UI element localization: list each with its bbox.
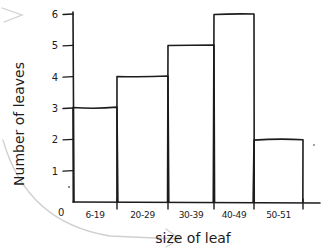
- y-tick-label: 5: [52, 40, 58, 51]
- y-tick-label: 1: [52, 166, 58, 177]
- y-axis-title: Number of leaves: [11, 62, 27, 186]
- x-category-label: 20-29: [130, 210, 155, 220]
- y-tick-mark: [63, 139, 73, 140]
- top-left-arrow-icon: [2, 8, 22, 22]
- bar-30-39: [168, 45, 215, 202]
- bar-20-29: [117, 76, 169, 202]
- x-category-label: 30-39: [179, 210, 204, 220]
- y-tick-label: 3: [52, 103, 58, 114]
- curved-arrow-line: [3, 140, 178, 239]
- origin-label: 0: [58, 207, 64, 218]
- y-tick-label: 2: [52, 134, 58, 145]
- x-axis-title: size of leaf: [155, 230, 232, 246]
- stray-dot: [313, 144, 315, 146]
- x-category-label: 50-51: [266, 210, 291, 220]
- x-axis-line: [73, 202, 320, 203]
- y-tick-mark: [63, 77, 73, 78]
- y-ticks: 123456: [52, 9, 73, 177]
- y-tick-mark: [63, 108, 73, 109]
- x-category-labels: 6-1920-2930-3940-4950-51: [85, 210, 290, 220]
- y-tick-mark: [63, 171, 73, 172]
- y-tick-label: 4: [52, 72, 58, 83]
- axes: [73, 12, 320, 209]
- bar-40-49: [213, 14, 254, 202]
- y-tick-mark: [63, 45, 73, 46]
- y-tick-mark: [63, 14, 73, 15]
- y-tick-label: 6: [52, 9, 58, 20]
- bars: [73, 14, 303, 202]
- bar-50-51: [253, 139, 303, 202]
- x-category-label: 6-19: [85, 210, 105, 220]
- bar-6-19: [73, 107, 118, 202]
- stray-dot: [68, 186, 70, 188]
- histogram-chart: 123456 6-1920-2930-3940-4950-51 0 Number…: [0, 0, 330, 250]
- x-category-label: 40-49: [222, 210, 247, 220]
